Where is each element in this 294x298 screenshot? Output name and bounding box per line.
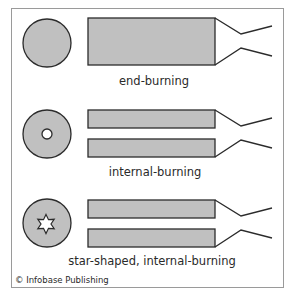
label-internal-burning: internal-burning	[109, 165, 201, 179]
grain-lower-bar	[88, 229, 215, 247]
round-core-icon	[42, 129, 52, 139]
copyright-credit: © Infobase Publishing	[15, 275, 109, 285]
grain-upper-bar	[88, 200, 215, 218]
grain-upper-bar	[88, 110, 215, 128]
grain-lower-bar	[88, 139, 215, 157]
label-star-shaped: star-shaped, internal-burning	[68, 254, 235, 268]
label-end-burning: end-burning	[119, 74, 189, 88]
solid-grain-bar	[88, 18, 215, 65]
rocket-grain-diagram: end-burning internal-burning star-shaped…	[0, 0, 294, 298]
solid-cross-section-icon	[23, 19, 71, 67]
